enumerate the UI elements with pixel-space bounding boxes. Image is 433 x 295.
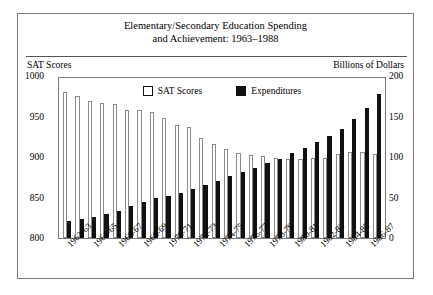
bar-group bbox=[247, 78, 259, 238]
y-axis-tick-label: 1000 bbox=[25, 72, 44, 82]
y-axis-tick-label: 800 bbox=[30, 234, 44, 244]
bar-group bbox=[148, 78, 160, 238]
bar-expenditure bbox=[191, 189, 195, 238]
bar-group bbox=[73, 78, 85, 238]
bar-group bbox=[86, 78, 98, 238]
bar-expenditure bbox=[166, 196, 170, 238]
y2-axis-tick-label: 150 bbox=[389, 113, 403, 123]
chart-title-line-1: Elementary/Secondary Education Spending bbox=[18, 20, 413, 33]
bar-group bbox=[160, 78, 172, 238]
left-axis-title: SAT Scores bbox=[27, 60, 71, 70]
chart-frame: Elementary/Secondary Education Spending … bbox=[17, 13, 414, 279]
bar-group bbox=[135, 78, 147, 238]
bar-group bbox=[321, 78, 333, 238]
bar-expenditure bbox=[377, 94, 381, 238]
bar-group bbox=[284, 78, 296, 238]
bar-group bbox=[259, 78, 271, 238]
y2-axis-tick-label: 100 bbox=[389, 153, 403, 163]
bar-expenditure bbox=[117, 211, 121, 238]
bar-group bbox=[346, 78, 358, 238]
bar-sat-score bbox=[75, 96, 79, 238]
chart-title-line-2: and Achievement: 1963–1988 bbox=[18, 33, 413, 46]
bar-group bbox=[309, 78, 321, 238]
bar-group bbox=[234, 78, 246, 238]
bar-group bbox=[296, 78, 308, 238]
bar-group bbox=[272, 78, 284, 238]
bar-group bbox=[371, 78, 383, 238]
y-axis-tick-label: 900 bbox=[30, 153, 44, 163]
bar-group bbox=[61, 78, 73, 238]
chart-title: Elementary/Secondary Education Spending … bbox=[18, 20, 413, 45]
bar-sat-score bbox=[63, 92, 67, 238]
bar-expenditure bbox=[142, 202, 146, 238]
right-axis-title: Billions of Dollars bbox=[333, 60, 404, 70]
bar-expenditure bbox=[365, 108, 369, 238]
bar-group bbox=[197, 78, 209, 238]
bar-group bbox=[111, 78, 123, 238]
title-divider bbox=[26, 56, 407, 57]
bar-group bbox=[173, 78, 185, 238]
y2-axis-tick-label: 50 bbox=[389, 194, 399, 204]
bar-group bbox=[185, 78, 197, 238]
bar-group bbox=[123, 78, 135, 238]
bar-group bbox=[358, 78, 370, 238]
bar-group-container bbox=[59, 78, 385, 238]
y2-axis-tick-label: 200 bbox=[389, 72, 403, 82]
bar-group bbox=[222, 78, 234, 238]
plot-area: SAT Scores Expenditures bbox=[58, 77, 386, 239]
y-axis-tick-label: 850 bbox=[30, 194, 44, 204]
bar-expenditure bbox=[303, 148, 307, 238]
bar-group bbox=[334, 78, 346, 238]
bar-group bbox=[210, 78, 222, 238]
y-axis-tick-label: 950 bbox=[30, 113, 44, 123]
bar-expenditure bbox=[352, 119, 356, 238]
y2-axis-tick-label: 0 bbox=[389, 234, 394, 244]
bar-group bbox=[98, 78, 110, 238]
x-axis-labels: 1962-631964-651966-671968-691970-711972-… bbox=[58, 240, 386, 286]
bar-expenditure bbox=[327, 136, 331, 238]
